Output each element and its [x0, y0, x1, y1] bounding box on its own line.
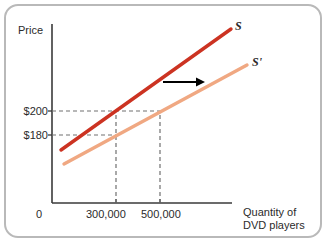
- supply-curve-shifted: [64, 65, 247, 164]
- supply-curve-original: [61, 29, 231, 150]
- x-tick-label-500000: 500,000: [141, 208, 181, 221]
- supply-shift-figure: Price $200 $180 0 300,000 500,000 Quanti…: [0, 0, 334, 252]
- x-axis-label-line-1: Quantity of: [243, 206, 305, 219]
- x-axis-label: Quantity of DVD players: [243, 206, 305, 231]
- y-tick-label-180: $180: [24, 129, 48, 142]
- rightward-shift-arrow: [163, 78, 205, 87]
- x-tick-label-0: 0: [36, 208, 42, 221]
- supply-curve-original-label: S: [235, 20, 242, 34]
- y-tick-label-200: $200: [24, 105, 48, 118]
- supply-curve-shifted-label: S': [252, 56, 262, 70]
- x-tick-label-300000: 300,000: [86, 208, 126, 221]
- x-axis-label-line-2: DVD players: [243, 219, 305, 232]
- y-axis-label: Price: [18, 24, 43, 37]
